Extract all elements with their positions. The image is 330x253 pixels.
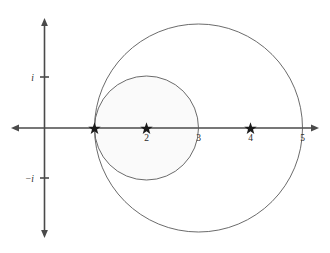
x-label-3: 3 (196, 133, 201, 143)
figure-canvas: i −i 2 3 4 5 (0, 0, 330, 253)
y-axis-down-arrow-icon (41, 230, 48, 238)
x-label-5: 5 (300, 133, 305, 143)
x-axis-right-arrow-icon (311, 125, 319, 132)
x-label-2: 2 (144, 133, 149, 143)
x-label-4: 4 (248, 133, 253, 143)
x-axis-left-arrow-icon (11, 125, 19, 132)
complex-plane-plot: i −i 2 3 4 5 (0, 0, 330, 253)
y-label-minus-i: −i (25, 174, 34, 184)
y-axis-up-arrow-icon (41, 18, 48, 26)
y-label-i: i (31, 73, 34, 83)
